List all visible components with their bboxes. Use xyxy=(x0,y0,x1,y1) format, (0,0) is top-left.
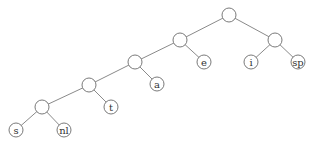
node-label: e xyxy=(201,57,207,68)
leaf-node-t: t xyxy=(104,100,118,114)
leaf-node-s: s xyxy=(9,123,23,137)
edge-n4-n5 xyxy=(42,85,89,107)
node-label: a xyxy=(154,79,160,90)
leaf-node-e: e xyxy=(197,55,211,69)
node-label: i xyxy=(249,57,252,68)
internal-node-n2 xyxy=(268,33,282,47)
node-circle xyxy=(35,100,49,114)
leaf-node-nl: nl xyxy=(57,123,71,137)
edge-root-n2 xyxy=(229,15,275,40)
edge-n3-n4 xyxy=(89,62,135,85)
node-label: s xyxy=(13,125,18,136)
node-label: nl xyxy=(59,125,69,136)
internal-node-root xyxy=(222,8,236,22)
node-circle xyxy=(128,55,142,69)
internal-node-n3 xyxy=(128,55,142,69)
internal-node-n4 xyxy=(82,78,96,92)
edge-root-n1 xyxy=(180,15,229,40)
leaf-node-sp: sp xyxy=(291,55,305,69)
node-circle xyxy=(268,33,282,47)
edge-n1-n3 xyxy=(135,40,180,62)
internal-node-n1 xyxy=(173,33,187,47)
internal-node-n5 xyxy=(35,100,49,114)
node-label: sp xyxy=(292,57,304,68)
node-circle xyxy=(222,8,236,22)
node-circle xyxy=(82,78,96,92)
leaf-node-i: i xyxy=(244,55,258,69)
huffman-tree-diagram: eispatsnl xyxy=(0,0,311,150)
leaf-node-a: a xyxy=(150,77,164,91)
node-label: t xyxy=(109,102,113,113)
node-circle xyxy=(173,33,187,47)
